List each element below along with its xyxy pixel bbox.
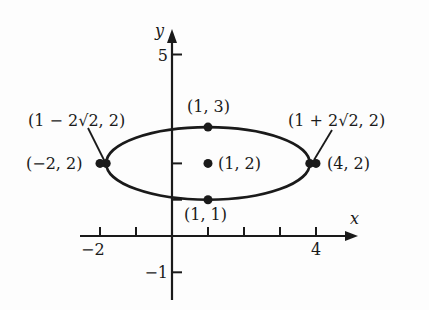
ellipse-diagram: x y −245−1 (1 − 2√2, 2) (1 + 2√2, 2) (1,… (0, 0, 429, 310)
point-center (204, 159, 213, 168)
label-center: (1, 2) (218, 154, 261, 173)
points (96, 123, 321, 205)
label-left-point: (−2, 2) (26, 154, 82, 173)
x-tick-label: 4 (311, 240, 321, 259)
y-axis-arrow-icon (167, 29, 177, 43)
label-right-vertex: (1 + 2√2, 2) (288, 111, 385, 130)
x-tick-label: −2 (81, 240, 105, 259)
point-bottom (204, 195, 213, 204)
label-left-vertex: (1 − 2√2, 2) (28, 111, 125, 130)
tick-labels: −245−1 (81, 46, 321, 283)
point-right-point (312, 159, 321, 168)
y-axis-label: y (154, 21, 165, 40)
label-right-point: (4, 2) (327, 154, 370, 173)
left-vertex-leader-line (88, 128, 104, 160)
coordinate-plane: x y −245−1 (1 − 2√2, 2) (1 + 2√2, 2) (1,… (0, 0, 429, 310)
point-left-point (96, 159, 105, 168)
label-bottom: (1, 1) (184, 205, 227, 224)
y-tick-label: −1 (144, 263, 168, 282)
label-top: (1, 3) (187, 97, 230, 116)
point-top (204, 123, 213, 132)
y-tick-label: 5 (158, 46, 168, 65)
x-axis-arrow-icon (345, 231, 358, 241)
x-axis-label: x (350, 209, 359, 228)
